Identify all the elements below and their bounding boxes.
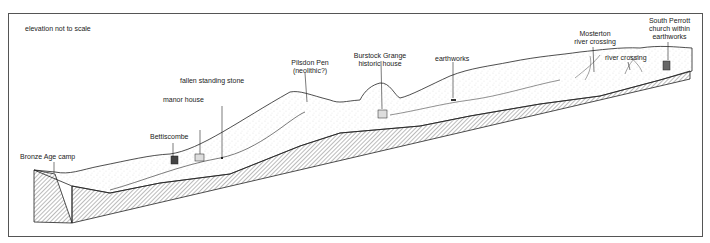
label-pilsdon-pen-line2: (neolithic?)	[285, 67, 335, 75]
south-perrott-church-icon	[663, 61, 670, 70]
label-fallen-standing-stone: fallen standing stone	[180, 77, 244, 85]
label-burstock-line1: Burstock Grange	[350, 52, 410, 60]
elevation-note: elevation not to scale	[25, 25, 91, 32]
label-pilsdon-pen: Pilsdon Pen (neolithic?)	[285, 59, 335, 75]
earthworks-icon	[451, 99, 456, 101]
label-south-perrott: South Perrott church within earthworks	[642, 17, 697, 41]
label-river-crossing: river crossing	[605, 54, 647, 62]
label-south-perrott-line1: South Perrott	[642, 17, 697, 25]
label-pilsdon-pen-line1: Pilsdon Pen	[285, 59, 335, 67]
label-south-perrott-line2: church within	[642, 25, 697, 33]
manor-house-icon	[195, 154, 204, 161]
standing-stone-icon	[221, 157, 223, 159]
label-bettiscombe: Bettiscombe	[150, 133, 189, 141]
label-manor-house: manor house	[163, 96, 204, 104]
burstock-grange-house-icon	[378, 110, 387, 118]
top-surface	[34, 46, 692, 193]
label-burstock-line2: historic house	[350, 60, 410, 68]
label-earthworks: earthworks	[435, 55, 469, 63]
bettiscombe-building-icon	[171, 156, 178, 164]
label-bronze-age-camp: Bronze Age camp	[20, 153, 75, 161]
label-mosterton-line1: Mosterton	[565, 30, 625, 38]
label-mosterton: Mosterton river crossing	[565, 30, 625, 46]
label-mosterton-line2: river crossing	[565, 38, 625, 46]
label-burstock-grange: Burstock Grange historic house	[350, 52, 410, 68]
label-south-perrott-line3: earthworks	[642, 33, 697, 41]
